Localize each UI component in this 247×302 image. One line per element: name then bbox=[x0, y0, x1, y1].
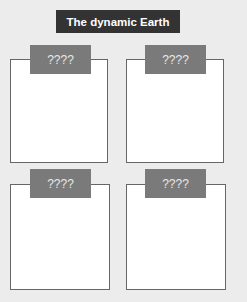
diagram-title: The dynamic Earth bbox=[56, 10, 180, 33]
panel-label-bottom-right: ???? bbox=[145, 169, 206, 198]
panel-box-bottom-right bbox=[126, 184, 226, 290]
panel-label-top-left: ???? bbox=[30, 45, 91, 74]
panel-box-top-left bbox=[10, 59, 108, 163]
panel-label-top-right: ???? bbox=[145, 45, 206, 74]
panel-box-top-right bbox=[126, 59, 224, 163]
panel-label-bottom-left: ???? bbox=[30, 169, 91, 198]
panel-box-bottom-left bbox=[10, 184, 110, 290]
